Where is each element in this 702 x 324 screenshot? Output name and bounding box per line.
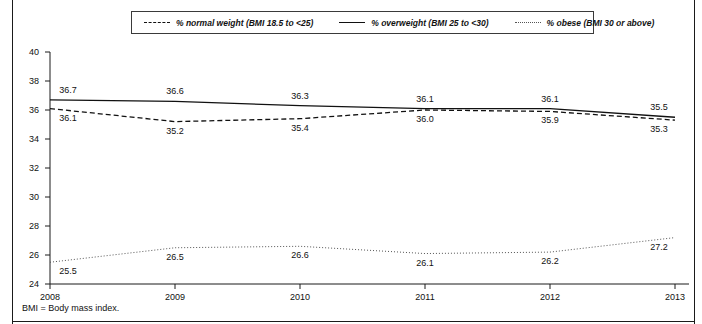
data-point-label: 35.2 [166,126,184,136]
y-axis-tick-label: 26 [17,250,39,260]
data-point-label: 26.1 [416,258,434,268]
data-point-label: 35.9 [541,115,559,125]
data-point-label: 25.5 [59,266,77,276]
y-axis-tick-label: 24 [17,279,39,289]
data-point-label: 26.2 [541,256,559,266]
x-axis-tick-label: 2013 [655,292,695,302]
data-point-label: 35.3 [650,124,668,134]
y-axis-tick-label: 40 [17,47,39,57]
data-point-label: 35.5 [650,102,668,112]
y-axis-tick-label: 30 [17,192,39,202]
y-axis-tick-label: 28 [17,221,39,231]
data-point-label: 36.3 [291,91,309,101]
data-point-label: 26.5 [166,252,184,262]
x-axis-tick-label: 2008 [30,292,70,302]
figure-container: % normal weight (BMI 18.5 to <25)% overw… [0,0,702,324]
data-point-label: 27.2 [650,242,668,252]
data-point-label: 36.0 [416,114,434,124]
chart-plot-area: 2426283032343638402008200920102011201220… [0,0,702,324]
data-point-label: 36.1 [59,113,77,123]
data-point-label: 36.1 [416,94,434,104]
data-point-label: 36.1 [541,94,559,104]
y-axis-tick-label: 36 [17,105,39,115]
x-axis-tick-label: 2009 [155,292,195,302]
x-axis-tick-label: 2010 [280,292,320,302]
data-point-label: 36.6 [166,86,184,96]
x-axis-tick-label: 2012 [530,292,570,302]
chart-footnote: BMI = Body mass index. [22,303,119,313]
y-axis-tick-label: 38 [17,76,39,86]
y-axis-tick-label: 34 [17,134,39,144]
data-point-label: 36.7 [59,85,77,95]
data-point-label: 35.4 [291,123,309,133]
data-point-label: 26.6 [291,250,309,260]
y-axis-tick-label: 32 [17,163,39,173]
series-line-2 [50,238,675,263]
x-axis-tick-label: 2011 [405,292,445,302]
chart-svg [0,0,702,324]
